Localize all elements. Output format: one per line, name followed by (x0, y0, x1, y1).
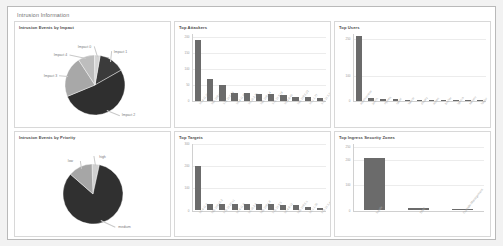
bar[interactable] (207, 79, 213, 101)
y-axis-tick-label: 0 (175, 99, 190, 103)
bar-chart-top-attackers[interactable]: 050100150200Count10.4.11.21192.168.10.71… (175, 31, 330, 127)
gridline (192, 144, 326, 145)
x-axis-tick-label: tgarcia (456, 95, 465, 105)
y-axis-line (353, 34, 354, 101)
bar[interactable] (364, 158, 385, 210)
y-axis-tick-label: 200 (335, 158, 351, 162)
pie-label: Impact 4 (54, 53, 67, 57)
panel-title-targets: Top Targets (179, 135, 203, 140)
bar-chart-top-users[interactable]: 0100250Countadministratorjsmithmjonesrpa… (335, 31, 490, 127)
pie-svg-priority-pie (62, 163, 124, 225)
bar[interactable] (356, 36, 362, 101)
panel-intrusion-events-by-impact[interactable]: Intrusion Events by Impact Impact 1Impac… (14, 21, 171, 128)
gridline (192, 188, 326, 189)
y-axis-line (192, 34, 193, 101)
y-axis-tick-label: 100 (175, 186, 190, 190)
panel-title-users: Top Users (339, 25, 360, 30)
panel-top-users[interactable]: Top Users 0100250Countadministratorjsmit… (334, 21, 491, 128)
report-frame: Intrusion Information Intrusion Events b… (7, 6, 496, 240)
pie-chart-impact[interactable]: Impact 1Impact 2Impact 3Impact 4Impact 0 (15, 31, 170, 127)
x-axis-tick-label: achen (432, 96, 440, 105)
pie-label: medium (118, 225, 130, 229)
targets-plot: 0100200300Count10.4.11.5192.168.10.2172.… (175, 141, 330, 237)
y-axis-line (353, 144, 354, 211)
gridline (353, 76, 486, 77)
y-axis-title: Count (334, 175, 335, 184)
pie-leader-line (59, 75, 68, 76)
users-plot: 0100250Countadministratorjsmithmjonesrpa… (335, 31, 490, 127)
pie-label: Impact 0 (78, 45, 91, 49)
y-axis-title: Count (174, 65, 175, 74)
x-axis-tick-label: ltaylor (480, 96, 488, 105)
bar-chart-top-targets[interactable]: 0100200300Count10.4.11.5192.168.10.2172.… (175, 141, 330, 237)
screenshot-root: Intrusion Information Intrusion Events b… (0, 0, 503, 246)
pie-leader-line (93, 156, 95, 166)
panel-title-zones: Top Ingress Security Zones (339, 135, 395, 140)
y-axis-title: Count (174, 175, 175, 184)
gridline (192, 53, 326, 54)
pie-label: Impact 3 (44, 74, 57, 78)
bar[interactable] (195, 40, 201, 101)
dashboard-grid: Intrusion Events by Impact Impact 1Impac… (14, 21, 491, 237)
gridline (192, 166, 326, 167)
y-axis-tick-label: 300 (175, 142, 190, 146)
y-axis-tick-label: 200 (175, 164, 190, 168)
bar[interactable] (195, 166, 201, 210)
panel-title-impact: Intrusion Events by Impact (19, 25, 74, 30)
attackers-plot: 050100150200Count10.4.11.21192.168.10.71… (175, 31, 330, 127)
panel-title-priority: Intrusion Events by Priority (19, 135, 75, 140)
pie-chart-priority[interactable]: highmediumlow (15, 141, 170, 237)
zones-plot: 0100200250CountInsideDMZOutside-Manageme… (335, 141, 490, 237)
y-axis-tick-label: 250 (335, 37, 351, 41)
impact-pie-plot: Impact 1Impact 2Impact 3Impact 4Impact 0 (15, 31, 170, 127)
gridline (353, 147, 484, 148)
panel-intrusion-events-by-priority[interactable]: Intrusion Events by Priority highmediuml… (14, 131, 171, 238)
y-axis-tick-label: 0 (335, 209, 351, 213)
gridline (192, 37, 326, 38)
pie-label: low (68, 159, 73, 163)
y-axis-tick-label: 0 (175, 209, 190, 213)
y-axis-tick-label: 50 (175, 83, 190, 87)
pie-label: Impact 1 (114, 50, 127, 54)
panel-top-targets[interactable]: Top Targets 0100200300Count10.4.11.5192.… (174, 131, 331, 238)
y-axis-line (192, 144, 193, 211)
priority-pie-plot: highmediumlow (15, 141, 170, 237)
pie-label: high (99, 155, 106, 159)
x-axis-tick-label: mjones (383, 95, 392, 105)
x-axis-tick-label: dlopez (420, 96, 429, 105)
bar-chart-ingress-zones[interactable]: 0100200250CountInsideDMZOutside-Manageme… (335, 141, 490, 237)
y-axis-tick-label: 200 (175, 35, 190, 39)
panel-title-attackers: Top Attackers (179, 25, 207, 30)
gridline (192, 69, 326, 70)
y-axis-tick-label: 150 (175, 51, 190, 55)
y-axis-tick-label: 0 (335, 99, 351, 103)
panel-top-attackers[interactable]: Top Attackers 050100150200Count10.4.11.2… (174, 21, 331, 128)
y-axis-tick-label: 100 (335, 74, 351, 78)
y-axis-tick-label: 100 (175, 67, 190, 71)
y-axis-title: Count (334, 65, 335, 74)
pie-label: Impact 2 (122, 113, 135, 117)
x-axis-tick-label: bmiller (444, 96, 453, 105)
report-title: Intrusion Information (17, 12, 69, 18)
y-axis-tick-label: 250 (335, 145, 351, 149)
gridline (353, 39, 486, 40)
x-axis-tick-label: swilson (468, 95, 477, 105)
pie-svg-impact-pie (64, 54, 126, 116)
y-axis-tick-label: 100 (335, 183, 351, 187)
panel-top-ingress-security-zones[interactable]: Top Ingress Security Zones 0100200250Cou… (334, 131, 491, 238)
